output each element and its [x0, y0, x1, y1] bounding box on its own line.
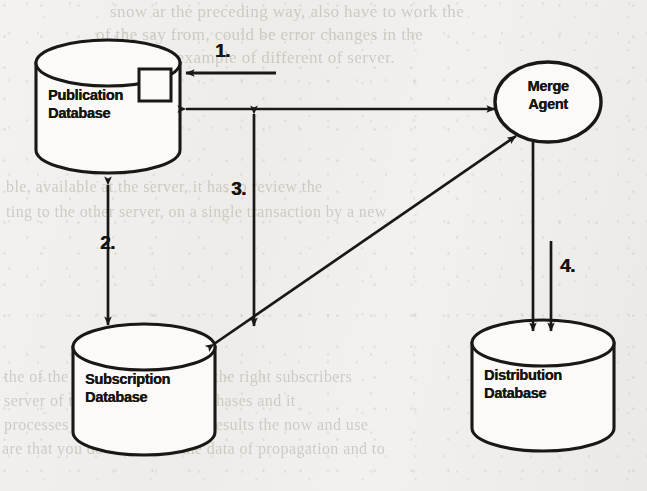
- subscription-database-top: [73, 324, 215, 370]
- node-publication-database[interactable]: [36, 40, 180, 173]
- connector-subscription-merge[interactable]: [214, 136, 516, 344]
- merge-agent-ellipse: [495, 62, 601, 142]
- node-subscription-database[interactable]: [73, 324, 215, 455]
- diagram-canvas: snow ar the preceding way, also have to …: [0, 0, 647, 491]
- publication-database-inner-square: [139, 69, 171, 101]
- node-merge-agent[interactable]: [495, 62, 601, 142]
- node-distribution-database[interactable]: [472, 320, 614, 451]
- distribution-database-top: [472, 320, 614, 366]
- diagram-vector-layer: [0, 0, 647, 491]
